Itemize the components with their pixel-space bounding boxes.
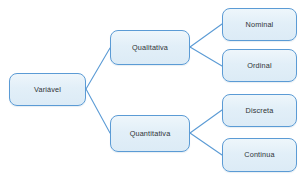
node-variavel[interactable]: Variável	[9, 73, 86, 106]
node-discreta-label: Discreta	[246, 107, 274, 114]
node-ordinal[interactable]: Ordinal	[222, 49, 297, 82]
node-ordinal-label: Ordinal	[247, 62, 272, 69]
node-qualitativa-label: Qualitativa	[132, 44, 168, 51]
node-continua-label: Continua	[244, 151, 274, 158]
node-discreta[interactable]: Discreta	[222, 94, 297, 127]
edge-qualitativa-ordinal	[190, 47, 222, 66]
edge-quantitativa-continua	[190, 133, 222, 155]
edge-qualitativa-nominal	[190, 24, 222, 47]
node-continua[interactable]: Continua	[222, 138, 297, 172]
node-quantitativa-label: Quantitativa	[130, 130, 171, 137]
node-nominal-label: Nominal	[246, 21, 274, 28]
node-qualitativa[interactable]: Qualitativa	[110, 30, 190, 65]
edge-quantitativa-discreta	[190, 110, 222, 133]
node-variavel-label: Variável	[34, 86, 61, 93]
diagram-canvas: Variável Qualitativa Quantitativa Nomina…	[0, 0, 303, 181]
edge-variavel-quantitativa	[86, 89, 110, 133]
edge-variavel-qualitativa	[86, 48, 110, 89]
node-nominal[interactable]: Nominal	[222, 8, 297, 41]
node-quantitativa[interactable]: Quantitativa	[110, 115, 190, 152]
